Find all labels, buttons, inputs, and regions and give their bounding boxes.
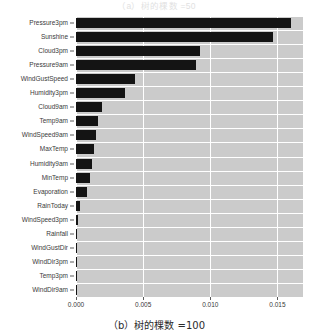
bar-humidity9am	[76, 159, 92, 169]
figure-caption: （b）树的棵数 =100	[0, 316, 313, 335]
bar-row	[76, 187, 303, 197]
gridline-horizontal-19	[76, 283, 303, 284]
y-tick-label-cloud9am: Cloud9am	[38, 104, 68, 111]
y-tick-label-temp9am: Temp9am	[39, 118, 68, 125]
y-tick-mark	[70, 37, 74, 38]
gridline-horizontal-5	[76, 86, 303, 87]
bar-row	[76, 285, 303, 295]
y-tick-label-winddir9am: WindDir9am	[32, 287, 68, 294]
bar-pressure9am	[76, 60, 196, 70]
y-axis-tick-labels: Pressure3pmSunshineCloud3pmPressure9amWi…	[0, 16, 76, 297]
bar-row	[76, 229, 303, 239]
y-tick-label-winddir3pm: WindDir3pm	[32, 259, 68, 266]
bar-winddir9am	[76, 285, 77, 295]
y-tick-mark	[70, 233, 74, 234]
bar-winddir3pm	[76, 257, 77, 267]
gridline-horizontal-15	[76, 227, 303, 228]
bar-raintoday	[76, 201, 80, 211]
bar-mintemp	[76, 173, 90, 183]
gridline-horizontal-4	[76, 72, 303, 73]
y-tick-mark	[70, 65, 74, 66]
gridline-horizontal-17	[76, 255, 303, 256]
bar-row	[76, 46, 303, 56]
y-tick-label-rainfall: Rainfall	[46, 231, 68, 238]
bar-windgustspeed	[76, 74, 135, 84]
gridline-horizontal-10	[76, 157, 303, 158]
y-tick-label-cloud3pm: Cloud3pm	[38, 48, 68, 55]
y-tick-label-mintemp: MinTemp	[42, 174, 68, 181]
bar-row	[76, 130, 303, 140]
bar-row	[76, 201, 303, 211]
bar-windgustdir	[76, 243, 77, 253]
x-tick-label-2: 0.010	[202, 302, 218, 309]
gridline-horizontal-13	[76, 199, 303, 200]
bar-row	[76, 88, 303, 98]
bar-windspeed9am	[76, 130, 96, 140]
bar-row	[76, 173, 303, 183]
y-tick-label-evaporation: Evaporation	[33, 188, 68, 195]
plot-area	[76, 16, 303, 297]
gridline-horizontal-3	[76, 58, 303, 59]
bar-evaporation	[76, 187, 87, 197]
y-tick-mark	[70, 275, 74, 276]
gridline-horizontal-16	[76, 241, 303, 242]
bar-row	[76, 74, 303, 84]
bar-row	[76, 102, 303, 112]
gridline-horizontal-9	[76, 142, 303, 143]
bar-temp3pm	[76, 271, 77, 281]
y-tick-mark	[70, 79, 74, 80]
y-tick-mark	[70, 261, 74, 262]
y-tick-label-sunshine: Sunshine	[41, 34, 68, 41]
bar-windspeed3pm	[76, 215, 78, 225]
gridline-horizontal-0	[76, 16, 303, 17]
y-tick-label-temp3pm: Temp3pm	[39, 273, 68, 280]
gridline-horizontal-14	[76, 213, 303, 214]
bar-row	[76, 116, 303, 126]
gridline-horizontal-8	[76, 128, 303, 129]
bar-temp9am	[76, 116, 98, 126]
y-tick-mark	[70, 205, 74, 206]
bar-sunshine	[76, 32, 273, 42]
bar-row	[76, 60, 303, 70]
y-tick-label-humidity3pm: Humidity3pm	[30, 90, 68, 97]
y-tick-label-windgustdir: WindGustDir	[31, 245, 68, 252]
y-tick-mark	[70, 23, 74, 24]
gridline-horizontal-2	[76, 44, 303, 45]
x-tick-mark	[76, 297, 77, 300]
y-tick-label-humidity9am: Humidity9am	[30, 160, 68, 167]
bar-row	[76, 18, 303, 28]
y-tick-label-pressure3pm: Pressure3pm	[29, 20, 68, 27]
y-tick-mark	[70, 121, 74, 122]
y-tick-mark	[70, 247, 74, 248]
bar-row	[76, 257, 303, 267]
gridline-horizontal-11	[76, 171, 303, 172]
x-tick-label-1: 0.005	[135, 302, 151, 309]
bar-pressure3pm	[76, 18, 291, 28]
bar-cloud3pm	[76, 46, 200, 56]
gridline-horizontal-7	[76, 114, 303, 115]
y-tick-mark	[70, 289, 74, 290]
x-tick-mark	[143, 297, 144, 300]
y-tick-label-raintoday: RainToday	[37, 202, 68, 209]
y-tick-mark	[70, 163, 74, 164]
gridline-horizontal-18	[76, 269, 303, 270]
y-tick-mark	[70, 219, 74, 220]
y-tick-mark	[70, 51, 74, 52]
gridline-horizontal-1	[76, 30, 303, 31]
y-tick-mark	[70, 191, 74, 192]
y-tick-label-windspeed3pm: WindSpeed3pm	[22, 216, 68, 223]
bar-row	[76, 159, 303, 169]
bar-rainfall	[76, 229, 77, 239]
y-tick-label-pressure9am: Pressure9am	[29, 62, 68, 69]
bar-cloud9am	[76, 102, 102, 112]
bar-maxtemp	[76, 144, 94, 154]
y-tick-label-windspeed9am: WindSpeed9am	[22, 132, 68, 139]
x-axis-tick-labels: 0.0000.0050.0100.015	[0, 297, 313, 313]
gridline-horizontal-6	[76, 100, 303, 101]
x-tick-mark	[210, 297, 211, 300]
x-tick-mark	[277, 297, 278, 300]
y-tick-mark	[70, 107, 74, 108]
x-tick-label-3: 0.015	[269, 302, 285, 309]
y-tick-label-maxtemp: MaxTemp	[40, 146, 68, 153]
bar-row	[76, 271, 303, 281]
